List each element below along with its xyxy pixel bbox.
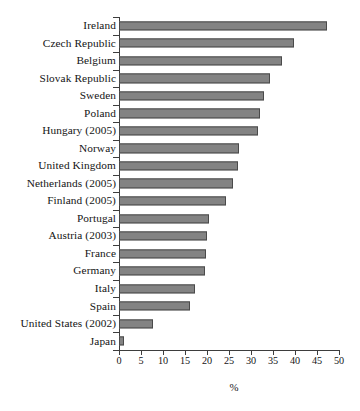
bar <box>119 337 124 346</box>
category-label: Norway <box>0 143 119 154</box>
bar-track <box>119 175 360 193</box>
y-axis-tick <box>113 227 119 228</box>
bar-row: Belgium <box>0 52 360 70</box>
x-axis-tick-label: 30 <box>239 356 263 366</box>
bar-row: Poland <box>0 105 360 123</box>
y-axis-tick <box>113 17 119 18</box>
y-axis-tick <box>113 105 119 106</box>
category-label: Portugal <box>0 213 119 224</box>
category-label: Finland (2005) <box>0 195 119 206</box>
y-axis-tick <box>113 175 119 176</box>
bar-row: Germany <box>0 262 360 280</box>
bar-track <box>119 245 360 263</box>
x-axis-title: % <box>0 381 360 393</box>
plot-area: IrelandCzech RepublicBelgiumSlovak Repub… <box>0 0 360 411</box>
category-label: United Kingdom <box>0 160 119 171</box>
bar <box>119 21 327 30</box>
x-axis-tick-label: 25 <box>217 356 241 366</box>
bar-row: Norway <box>0 140 360 158</box>
y-axis-tick <box>113 315 119 316</box>
category-label: Austria (2003) <box>0 230 119 241</box>
bar-row: United Kingdom <box>0 157 360 175</box>
bar-track <box>119 122 360 140</box>
category-label: Japan <box>0 336 119 347</box>
x-axis-tick-label: 15 <box>173 356 197 366</box>
y-axis-tick <box>113 262 119 263</box>
x-axis-tick-label: 5 <box>129 356 153 366</box>
bar <box>119 302 190 311</box>
bar-row: United States (2002) <box>0 315 360 333</box>
bar <box>119 179 233 188</box>
category-label: Poland <box>0 108 119 119</box>
bar-chart-figure: IrelandCzech RepublicBelgiumSlovak Repub… <box>0 0 360 411</box>
x-axis-tick-label: 45 <box>305 356 329 366</box>
category-label: Germany <box>0 265 119 276</box>
category-label: Czech Republic <box>0 38 119 49</box>
y-axis-tick <box>113 35 119 36</box>
y-axis-tick <box>113 87 119 88</box>
bar-track <box>119 87 360 105</box>
category-label: Netherlands (2005) <box>0 178 119 189</box>
bar-row: Slovak Republic <box>0 70 360 88</box>
category-label: Slovak Republic <box>0 73 119 84</box>
y-axis-tick <box>113 210 119 211</box>
bar <box>119 249 206 258</box>
bar-row: Netherlands (2005) <box>0 175 360 193</box>
bar-row: Czech Republic <box>0 35 360 53</box>
bar-row: Austria (2003) <box>0 227 360 245</box>
bar-track <box>119 262 360 280</box>
bar-track <box>119 297 360 315</box>
bar-row: Italy <box>0 280 360 298</box>
bar <box>119 214 209 223</box>
y-axis-tick <box>113 122 119 123</box>
bar-row: France <box>0 245 360 263</box>
bar-track <box>119 17 360 35</box>
y-axis-tick <box>113 157 119 158</box>
bar-row: Hungary (2005) <box>0 122 360 140</box>
category-label: Spain <box>0 301 119 312</box>
bar-track <box>119 332 360 350</box>
bar-track <box>119 280 360 298</box>
category-label: Italy <box>0 283 119 294</box>
bar <box>119 231 207 240</box>
bar-track <box>119 35 360 53</box>
bar <box>119 284 195 293</box>
x-axis-tick-label: 40 <box>283 356 307 366</box>
y-axis-tick <box>113 332 119 333</box>
category-label: Hungary (2005) <box>0 125 119 136</box>
bar-track <box>119 70 360 88</box>
bar-track <box>119 192 360 210</box>
bar <box>119 267 205 276</box>
y-axis-tick <box>113 192 119 193</box>
y-axis-tick <box>113 140 119 141</box>
x-axis-tick-label: 0 <box>107 356 131 366</box>
bar <box>119 144 239 153</box>
bar-row: Spain <box>0 297 360 315</box>
bar-track <box>119 105 360 123</box>
bar-track <box>119 52 360 70</box>
bar <box>119 39 294 48</box>
y-axis-tick <box>113 297 119 298</box>
bar-row: Finland (2005) <box>0 192 360 210</box>
y-axis-tick <box>113 280 119 281</box>
bar-row: Ireland <box>0 17 360 35</box>
bar-row: Sweden <box>0 87 360 105</box>
bar <box>119 56 282 65</box>
bar <box>119 126 258 135</box>
x-axis-tick-label: 20 <box>195 356 219 366</box>
x-axis-tick-label: 10 <box>151 356 175 366</box>
bar-track <box>119 157 360 175</box>
x-axis-title-label: % <box>230 381 239 393</box>
bar <box>119 196 226 205</box>
bar <box>119 319 153 328</box>
category-label: Belgium <box>0 55 119 66</box>
bar-row: Japan <box>0 332 360 350</box>
bar-track <box>119 210 360 228</box>
y-axis-tick <box>113 245 119 246</box>
category-label: Sweden <box>0 90 119 101</box>
bar-track <box>119 227 360 245</box>
bar <box>119 161 238 170</box>
x-axis-tick-label: 35 <box>261 356 285 366</box>
category-label: France <box>0 248 119 259</box>
bar <box>119 91 264 100</box>
